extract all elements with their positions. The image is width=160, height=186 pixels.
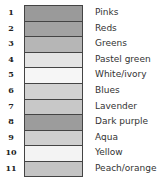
legend-number: 7	[4, 101, 18, 111]
legend-number: 5	[4, 69, 18, 79]
legend-row: 3 Greens	[0, 36, 160, 52]
color-legend: 1 Pinks 2 Reds 3 Greens 4 Pastel green 5…	[0, 5, 160, 177]
legend-label: Pinks	[95, 7, 118, 17]
legend-row: 5 White/ivory	[0, 67, 160, 83]
legend-row: 7 Lavender	[0, 99, 160, 115]
legend-number: 3	[4, 38, 18, 48]
color-swatch	[24, 52, 83, 68]
color-swatch	[24, 130, 83, 146]
legend-label: Greens	[95, 38, 127, 48]
legend-row: 2 Reds	[0, 21, 160, 37]
color-swatch	[24, 5, 83, 21]
legend-number: 8	[4, 116, 18, 126]
legend-label: White/ivory	[95, 69, 147, 79]
legend-row: 6 Blues	[0, 83, 160, 99]
legend-row: 1 Pinks	[0, 5, 160, 21]
color-swatch	[24, 114, 83, 130]
color-swatch	[24, 67, 83, 83]
legend-number: 1	[4, 7, 18, 17]
legend-label: Yellow	[95, 147, 123, 157]
legend-label: Reds	[95, 23, 117, 33]
legend-row: 4 Pastel green	[0, 52, 160, 68]
legend-row: 9 Aqua	[0, 130, 160, 146]
legend-label: Pastel green	[95, 54, 151, 64]
color-swatch	[24, 21, 83, 37]
color-swatch	[24, 161, 83, 177]
color-swatch	[24, 145, 83, 161]
legend-row: 11 Peach/orange	[0, 161, 160, 177]
legend-row: 8 Dark purple	[0, 114, 160, 130]
legend-number: 10	[4, 147, 18, 157]
legend-number: 4	[4, 54, 18, 64]
legend-label: Peach/orange	[95, 163, 157, 173]
legend-label: Dark purple	[95, 116, 148, 126]
color-swatch	[24, 36, 83, 52]
legend-label: Aqua	[95, 132, 118, 142]
legend-number: 11	[4, 163, 18, 173]
legend-label: Blues	[95, 85, 120, 95]
legend-label: Lavender	[95, 101, 137, 111]
legend-number: 6	[4, 85, 18, 95]
color-swatch	[24, 99, 83, 115]
legend-number: 9	[4, 132, 18, 142]
legend-row: 10 Yellow	[0, 145, 160, 161]
color-swatch	[24, 83, 83, 99]
legend-number: 2	[4, 23, 18, 33]
